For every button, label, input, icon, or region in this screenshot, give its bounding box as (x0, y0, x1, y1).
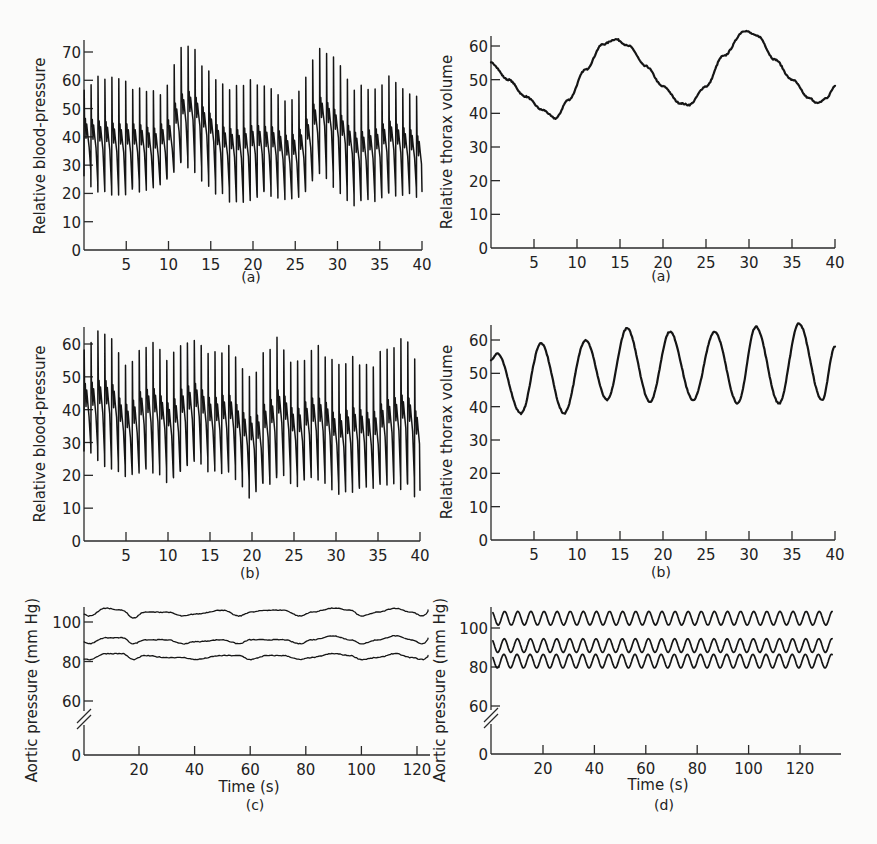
x-tick-label: 40 (585, 760, 604, 778)
x-tick-label: 25 (286, 256, 305, 274)
y-tick-label: 30 (62, 435, 81, 453)
x-tick-label: 40 (185, 761, 204, 779)
x-tick-label: 10 (567, 546, 586, 564)
x-tick-label: 80 (296, 761, 315, 779)
chart-aortic_d: 0608010020406080100120Aortic pressure (m… (431, 598, 841, 813)
y-tick-label: 50 (469, 72, 488, 90)
y-tick-label: 80 (469, 659, 488, 677)
y-tick-label: 30 (469, 432, 488, 450)
x-tick-label: 25 (696, 254, 715, 272)
x-tick-label: 120 (403, 761, 432, 779)
x-tick-label: 80 (688, 760, 707, 778)
x-tick-label: 25 (696, 546, 715, 564)
y-tick-label: 0 (71, 242, 81, 260)
x-axis-title: Time (s) (627, 776, 689, 794)
panel-label: (a) (651, 268, 671, 284)
x-tick-label: 30 (326, 547, 345, 565)
x-tick-label: 60 (241, 761, 260, 779)
x-tick-label: 15 (201, 256, 220, 274)
x-tick-label: 15 (610, 546, 629, 564)
y-tick-label: 60 (62, 693, 81, 711)
y-tick-label: 50 (62, 369, 81, 387)
chart-bp_b: 0102030405060510152025303540Relative blo… (31, 327, 430, 581)
x-tick-label: 20 (653, 546, 672, 564)
panel-label: (d) (654, 797, 674, 813)
y-tick-label: 0 (478, 532, 488, 550)
y-tick-label: 10 (469, 206, 488, 224)
x-tick-label: 35 (368, 547, 387, 565)
y-tick-label: 60 (62, 72, 81, 90)
x-tick-label: 15 (200, 547, 219, 565)
y-tick-label: 20 (62, 467, 81, 485)
panel-label: (b) (651, 564, 671, 580)
y-axis-title: Relative thorax volume (438, 55, 456, 229)
y-tick-label: 20 (62, 185, 81, 203)
x-tick-label: 100 (734, 760, 763, 778)
thorax-volume-trace (491, 31, 835, 119)
x-tick-label: 40 (410, 547, 429, 565)
x-tick-label: 100 (347, 761, 376, 779)
y-tick-label: 10 (62, 214, 81, 232)
panel-label: (b) (240, 565, 260, 581)
y-tick-label: 40 (62, 402, 81, 420)
x-tick-label: 30 (739, 546, 758, 564)
x-tick-label: 5 (121, 256, 131, 274)
x-tick-label: 40 (825, 546, 844, 564)
panel-label: (c) (246, 797, 265, 813)
x-tick-label: 20 (129, 761, 148, 779)
y-axis-title: Aortic pressure (mm Hg) (431, 598, 449, 782)
x-tick-label: 5 (529, 254, 539, 272)
y-tick-label: 30 (62, 157, 81, 175)
thorax-volume-trace (491, 323, 835, 414)
y-tick-label: 40 (62, 129, 81, 147)
axis-break-mark (77, 709, 91, 723)
x-tick-label: 20 (533, 760, 552, 778)
y-tick-label: 40 (469, 399, 488, 417)
y-tick-label: 40 (469, 105, 488, 123)
y-tick-label: 60 (469, 38, 488, 56)
x-tick-label: 30 (328, 256, 347, 274)
x-tick-label: 10 (158, 547, 177, 565)
x-tick-label: 35 (782, 254, 801, 272)
y-tick-label: 60 (469, 698, 488, 716)
y-axis-title: Relative blood-pressure (31, 345, 49, 522)
y-tick-label: 0 (71, 533, 81, 551)
y-axis-title: Relative blood-pressure (31, 57, 49, 234)
x-tick-label: 35 (370, 256, 389, 274)
y-tick-label: 60 (62, 336, 81, 354)
x-tick-label: 10 (159, 256, 178, 274)
y-axis-title: Aortic pressure (mm Hg) (23, 598, 41, 782)
y-tick-label: 50 (62, 101, 81, 119)
y-tick-label: 60 (469, 332, 488, 350)
x-tick-label: 5 (529, 546, 539, 564)
x-tick-label: 10 (567, 254, 586, 272)
x-tick-label: 15 (610, 254, 629, 272)
y-tick-label: 0 (478, 746, 488, 764)
figure-canvas: 010203040506070510152025303540Relative b… (0, 0, 877, 844)
y-axis-title: Relative thorax volume (438, 345, 456, 519)
y-tick-label: 30 (469, 139, 488, 157)
y-tick-label: 0 (478, 240, 488, 258)
y-tick-label: 70 (62, 44, 81, 62)
x-axis-title: Time (s) (218, 778, 280, 796)
aortic-mean-trace (84, 636, 428, 645)
blood-pressure-trace (84, 46, 422, 205)
aortic-systolic-trace (493, 611, 832, 625)
aortic-diastolic-trace (493, 654, 832, 668)
x-tick-label: 120 (786, 760, 815, 778)
blood-pressure-trace (84, 331, 420, 498)
x-tick-label: 30 (739, 254, 758, 272)
y-tick-label: 10 (62, 500, 81, 518)
aortic-systolic-trace (84, 608, 428, 618)
panel-label: (a) (241, 269, 261, 285)
x-tick-label: 40 (412, 256, 431, 274)
y-tick-label: 100 (459, 620, 488, 638)
aortic-diastolic-trace (84, 653, 428, 659)
y-tick-label: 10 (469, 499, 488, 517)
y-tick-label: 20 (469, 173, 488, 191)
y-tick-label: 20 (469, 465, 488, 483)
chart-bp_a: 010203040506070510152025303540Relative b… (31, 40, 432, 285)
aortic-mean-trace (493, 639, 832, 653)
chart-aortic_c: 0608010020406080100120Aortic pressure (m… (23, 598, 431, 813)
x-tick-label: 40 (825, 254, 844, 272)
